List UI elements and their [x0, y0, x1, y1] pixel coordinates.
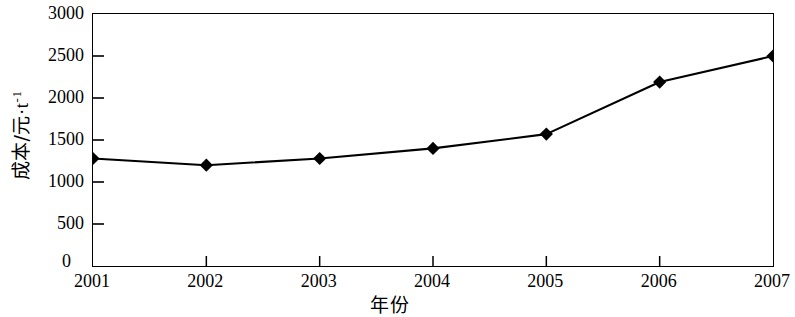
y-axis-zero-label: 0	[62, 252, 71, 270]
data-point-marker	[313, 152, 326, 165]
x-tick-label: 2001	[47, 270, 137, 292]
data-point-marker	[200, 159, 213, 172]
y-axis-tick-labels: 50010001500200025003000	[36, 0, 84, 290]
x-tick-label: 2002	[160, 270, 250, 292]
y-axis-tick-marks	[93, 56, 104, 224]
y-tick-label: 3000	[38, 4, 84, 22]
data-point-marker	[93, 152, 100, 165]
data-line-svg	[93, 14, 773, 266]
x-axis-title: 年份	[0, 290, 780, 317]
data-point-marker	[766, 49, 773, 62]
y-axis-title-base: 成本/元	[11, 115, 33, 180]
y-tick-label: 1000	[38, 172, 84, 190]
x-tick-label: 2007	[727, 270, 795, 292]
y-axis-title-unit: t	[12, 102, 33, 108]
x-tick-label: 2004	[387, 270, 477, 292]
y-axis-title-text: 成本/元·t-1	[7, 90, 34, 180]
y-axis-title-dot: ·	[12, 108, 33, 115]
x-tick-label: 2006	[614, 270, 704, 292]
x-tick-label: 2005	[500, 270, 590, 292]
y-axis-title: 成本/元·t-1	[0, 0, 40, 270]
x-tick-label: 2003	[274, 270, 364, 292]
y-tick-label: 500	[38, 214, 84, 232]
y-tick-label: 2000	[38, 88, 84, 106]
y-axis-title-exponent: -1	[9, 90, 24, 102]
data-point-markers	[93, 49, 773, 171]
y-tick-label: 2500	[38, 46, 84, 64]
x-axis-tick-marks	[206, 256, 659, 266]
y-tick-label: 1500	[38, 130, 84, 148]
plot-area	[92, 13, 774, 267]
data-point-marker	[653, 75, 666, 88]
data-point-marker	[426, 142, 439, 155]
data-point-marker	[540, 128, 553, 141]
